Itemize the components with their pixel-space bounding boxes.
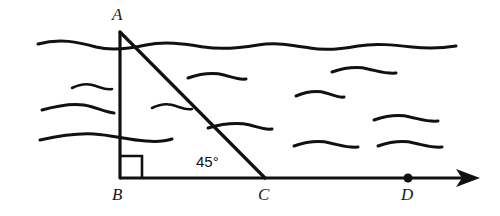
wave-squiggle <box>332 68 396 74</box>
wave-squiggle <box>374 116 438 122</box>
water-surface-wave <box>38 41 456 49</box>
wave-squiggle <box>42 104 114 113</box>
wave-squiggle <box>40 134 172 142</box>
right-angle-marker <box>120 156 142 178</box>
water-waves-group <box>38 41 456 147</box>
wave-squiggle <box>296 92 344 98</box>
vertex-label-b: B <box>112 186 122 203</box>
wave-squiggle <box>152 104 192 109</box>
vertex-label-a: A <box>112 6 122 23</box>
wave-squiggle <box>378 142 442 148</box>
vertex-label-c: C <box>258 186 269 203</box>
diagram-svg <box>0 0 500 216</box>
angle-label-45-degrees: 45° <box>196 154 219 169</box>
point-marker-D <box>404 174 413 183</box>
wave-squiggle <box>188 74 246 80</box>
geometry-diagram-canvas: A B C D 45° <box>0 0 500 216</box>
wave-squiggle <box>72 84 112 89</box>
wave-squiggle <box>294 142 358 148</box>
vertex-label-d: D <box>401 186 413 203</box>
triangle-group <box>120 32 480 187</box>
